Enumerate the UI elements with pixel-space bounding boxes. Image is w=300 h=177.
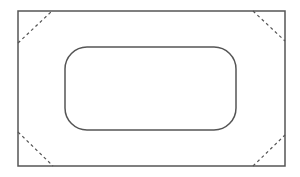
diagram-canvas [0,0,300,177]
corner-dashed-line-bottom-left [18,132,53,166]
corner-dashed-line-top-left [18,11,52,43]
corner-dashed-line-bottom-right [253,135,285,166]
corner-dashed-line-top-right [253,11,285,41]
inner-rounded-rectangle [65,47,236,130]
outer-rectangle [18,11,285,166]
